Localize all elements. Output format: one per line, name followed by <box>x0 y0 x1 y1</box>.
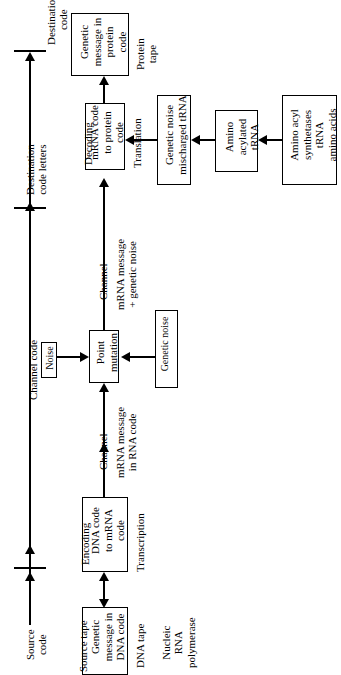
box-source-tape-label: Genetic message in DNA code <box>89 604 127 670</box>
caption-dna-tape: DNA tape <box>134 624 146 668</box>
axis-label-destination-code-letters: Destination code letters <box>24 144 49 195</box>
caption-protein-tape: Protein tape <box>134 38 159 70</box>
box-genetic-noise-label: Genetic noise <box>159 305 170 383</box>
axis-tick-source-code <box>14 567 46 569</box>
arrow-decoding-to-protein-head <box>99 76 109 85</box>
box-synthetases-label: Amino acyl synthetases tRNA amino acids <box>288 90 338 180</box>
lower-channel-arrowhead-top <box>99 383 109 392</box>
box-protein-tape-label: Genetic message in protein code <box>78 13 128 71</box>
caption-decoding: Decoding <box>82 122 94 165</box>
caption-channel-lower-payload: mRNA message in RNA code <box>114 407 139 478</box>
arrow-geneticnoise-to-mutation-shaft <box>128 356 155 358</box>
caption-channel-upper: Channel <box>97 263 109 300</box>
channel-axis-arrowhead-lower2 <box>25 572 35 581</box>
box-point-mutation-label: Point mutation <box>94 326 119 379</box>
channel-axis-arrowhead-mid <box>25 202 35 211</box>
axis-tick-destination-code <box>14 50 46 52</box>
caption-transcription: Transcription <box>134 513 146 572</box>
caption-polymerase: Nucleic RNA polymerase <box>160 617 197 668</box>
box-amino-acylated-trna-label: Amino acylated tRNA <box>223 106 261 168</box>
caption-encoding: Encoding <box>79 523 91 565</box>
arrow-mischarged-to-decoding-head <box>125 135 134 145</box>
arrow-synthetases-to-acylated-shaft <box>265 139 282 141</box>
arrow-sourcetape-encoding-head-up <box>99 572 109 581</box>
box-encoding-label: DNA code to mRNA code <box>89 493 127 568</box>
caption-channel-upper-payload: mRNA message + genetic noise <box>114 239 139 310</box>
caption-channel-lower: Channel <box>97 433 109 470</box>
arrow-geneticnoise-to-mutation-head <box>121 352 130 362</box>
arrow-noise-to-mutation-head <box>80 352 89 362</box>
upper-channel-arrowhead <box>99 178 109 187</box>
arrow-mischarged-to-decoding-shaft <box>132 139 157 141</box>
axis-label-channel-code: Channel code <box>27 340 39 400</box>
upper-channel-shaft <box>103 186 105 330</box>
arrow-synthetases-to-acylated-head <box>258 135 267 145</box>
channel-axis-arrowhead-lower <box>25 545 35 554</box>
box-mischarged-trna-label: Genetic noise mischarged tRNA <box>163 90 188 180</box>
axis-label-source-code: Source code <box>24 629 49 660</box>
axis-label-destination-code: Destination code <box>45 0 70 45</box>
arrow-acylated-to-mischarged-shaft <box>198 139 215 141</box>
arrow-noise-to-mutation-shaft <box>57 356 80 358</box>
box-noise-label: Noise <box>44 340 55 376</box>
arrow-acylated-to-mischarged-head <box>191 135 200 145</box>
channel-axis-arrowhead-top <box>25 52 35 61</box>
caption-source-tape: Source tape <box>77 620 89 672</box>
